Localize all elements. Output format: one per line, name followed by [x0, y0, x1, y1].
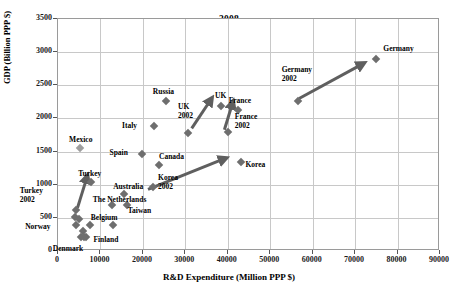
y-tick-label: 3500 — [20, 13, 52, 22]
x-tick-mark — [99, 250, 100, 254]
x-tick-label: 80000 — [373, 255, 421, 264]
x-tick-label: 20000 — [118, 255, 166, 264]
x-tick-label: 50000 — [245, 255, 293, 264]
point-label-line: France — [235, 112, 258, 121]
x-tick-mark — [354, 250, 355, 254]
data-point-marker[interactable] — [155, 161, 163, 169]
y-tick-label: 2000 — [20, 112, 52, 121]
x-tick-label: 90000 — [415, 255, 458, 264]
point-label: Norway — [25, 222, 50, 231]
point-label-line: UK — [178, 102, 193, 111]
point-label: Turkey — [78, 169, 101, 178]
point-label: Spain — [109, 148, 127, 157]
point-label: Taiwan — [128, 206, 152, 215]
point-label-line: Finland — [93, 235, 118, 244]
y-tick-label: 1500 — [20, 146, 52, 155]
data-point-marker[interactable] — [294, 96, 302, 104]
y-axis-label: GDP (Billion PPP $) — [2, 0, 12, 84]
point-label-line: Italy — [122, 121, 137, 130]
point-label: The Netherlands — [93, 195, 147, 204]
point-label: Germany — [383, 44, 413, 53]
point-label-line: France — [229, 96, 252, 105]
point-label-line: 2002 — [282, 74, 312, 83]
data-point-marker[interactable] — [224, 128, 232, 136]
point-label-line: Korea — [158, 173, 178, 182]
gridline-horizontal — [58, 85, 438, 86]
point-label-line: Germany — [383, 44, 413, 53]
x-tick-label: 10000 — [75, 255, 123, 264]
point-label-line: Taiwan — [128, 206, 152, 215]
y-tick-label: 2500 — [20, 79, 52, 88]
y-tick-mark — [53, 184, 57, 185]
y-tick-mark — [53, 84, 57, 85]
point-label-line: UK — [215, 91, 226, 100]
point-label-line: Australia — [113, 182, 143, 191]
point-label-line: Turkey — [20, 186, 43, 195]
x-tick-label: 0 — [33, 255, 81, 264]
point-label: Italy — [122, 121, 137, 130]
data-point-marker[interactable] — [236, 157, 244, 165]
point-label-line: Norway — [25, 222, 50, 231]
data-point-marker[interactable] — [162, 97, 170, 105]
y-tick-label: 3000 — [20, 46, 52, 55]
point-label-line: Spain — [109, 148, 127, 157]
gridline-vertical — [313, 19, 314, 249]
point-label: Denmark — [53, 244, 83, 253]
x-tick-mark — [142, 250, 143, 254]
point-label-line: Germany — [282, 65, 312, 74]
point-label: Germany2002 — [282, 65, 312, 83]
x-axis-label: R&D Expenditure (Million PPP $) — [0, 272, 458, 282]
point-label: UK2002 — [178, 102, 193, 120]
point-label-line: 2002 — [158, 182, 178, 191]
x-tick-mark — [227, 250, 228, 254]
chart-root: 2008 GDP (Billion PPP $) R&D Expenditure… — [0, 0, 458, 291]
point-label: Belgium — [91, 213, 118, 222]
point-label: France2002 — [235, 112, 258, 130]
point-label: UK — [215, 91, 226, 100]
point-label: France — [229, 96, 252, 105]
point-label-line: Turkey — [78, 169, 101, 178]
point-label-line: Russia — [153, 87, 174, 96]
x-tick-mark — [312, 250, 313, 254]
gridline-horizontal — [58, 52, 438, 53]
point-label: Canada — [159, 152, 184, 161]
x-tick-label: 60000 — [288, 255, 336, 264]
point-label: Russia — [153, 87, 174, 96]
x-tick-mark — [184, 250, 185, 254]
point-label: Korea2002 — [158, 173, 178, 191]
point-label-line: The Netherlands — [93, 195, 147, 204]
data-point-marker[interactable] — [149, 122, 157, 130]
data-point-marker[interactable] — [372, 55, 380, 63]
turkey-growth-arrow — [78, 176, 88, 208]
y-tick-label: 500 — [20, 212, 52, 221]
point-label-line: Korea — [246, 160, 266, 169]
point-label-line: 2002 — [178, 111, 193, 120]
y-tick-mark — [53, 18, 57, 19]
point-label-line: Belgium — [91, 213, 118, 222]
point-label-line: 2002 — [235, 121, 258, 130]
y-tick-mark — [53, 217, 57, 218]
gridline-vertical — [398, 19, 399, 249]
point-label: Finland — [93, 235, 118, 244]
point-label-line: 2002 — [20, 195, 43, 204]
y-tick-mark — [53, 117, 57, 118]
point-label: Korea — [246, 160, 266, 169]
gridline-vertical — [355, 19, 356, 249]
y-tick-mark — [53, 151, 57, 152]
uk-growth-arrow — [192, 99, 212, 129]
point-label: Turkey2002 — [20, 186, 43, 204]
data-point-marker[interactable] — [109, 221, 117, 229]
point-label: Mexico — [69, 135, 92, 144]
point-label-line: Denmark — [53, 244, 83, 253]
data-point-marker[interactable] — [86, 220, 94, 228]
data-point-marker[interactable] — [217, 102, 225, 110]
point-label: Australia — [113, 182, 143, 191]
y-tick-mark — [53, 51, 57, 52]
x-tick-label: 70000 — [330, 255, 378, 264]
x-tick-label: 40000 — [203, 255, 251, 264]
x-tick-mark — [397, 250, 398, 254]
x-tick-mark — [439, 250, 440, 254]
gridline-vertical — [270, 19, 271, 249]
y-tick-label: 0 — [20, 245, 52, 254]
x-tick-label: 30000 — [160, 255, 208, 264]
